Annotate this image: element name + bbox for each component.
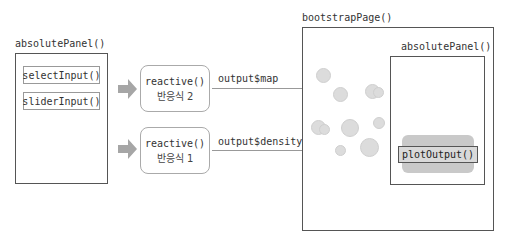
plot-output-box: plotOutput() [398, 146, 478, 163]
plot-output-area: plotOutput() [402, 135, 474, 173]
select-input-box: selectInput() [23, 66, 100, 84]
reactive-label: 반응식 1 [157, 151, 194, 166]
map-circle [335, 145, 346, 156]
inner-absolute-panel: plotOutput() [390, 56, 485, 185]
arrow-right-icon [118, 79, 138, 99]
reactive-func-label: reactive() [145, 74, 205, 89]
reactive-label: 반응식 2 [157, 89, 194, 104]
map-circle [316, 68, 331, 83]
reactive-func-label: reactive() [145, 136, 205, 151]
slider-input-box: sliderInput() [23, 92, 100, 110]
left-panel-title: absolutePanel() [15, 38, 105, 49]
arrow-right-icon [118, 139, 138, 159]
map-circle [333, 87, 348, 102]
bootstrap-page-title: bootstrapPage() [302, 12, 392, 23]
map-circle [373, 117, 385, 129]
left-absolute-panel: selectInput() sliderInput() [15, 53, 108, 184]
map-circle [341, 119, 359, 137]
map-circle [373, 87, 384, 98]
output-density-label: output$density [218, 136, 302, 147]
inner-panel-title: absolutePanel() [401, 41, 491, 52]
output-map-label: output$map [218, 73, 278, 84]
map-circle [360, 138, 379, 157]
reactive-box-1: reactive() 반응식 1 [140, 127, 210, 174]
reactive-box-2: reactive() 반응식 2 [140, 65, 210, 112]
map-circle [319, 124, 330, 135]
